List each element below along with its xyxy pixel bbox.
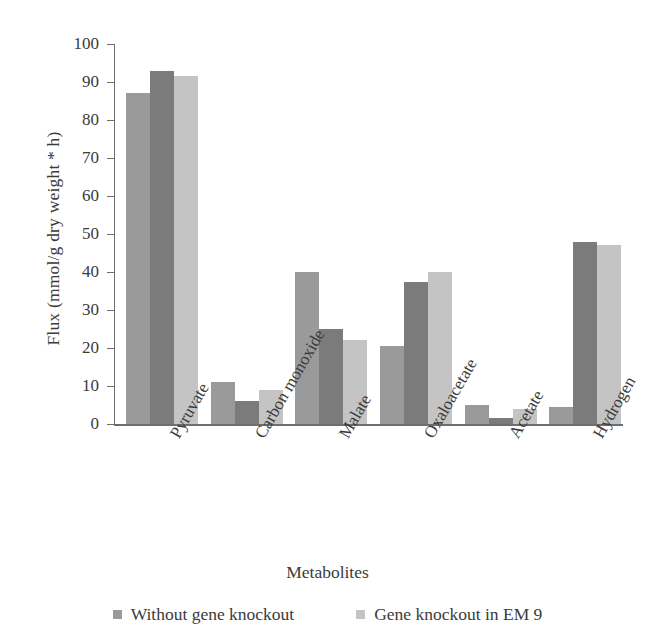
y-axis-tick-mark [107, 82, 114, 83]
bar [465, 405, 489, 424]
y-axis-tick-label: 70 [82, 149, 99, 166]
legend-label: Without gene knockout [131, 604, 295, 625]
y-axis-tick-mark [107, 386, 114, 387]
y-axis-tick-label: 50 [82, 225, 99, 242]
legend-swatch-icon [356, 610, 365, 619]
legend-label: Gene knockout in EM 9 [374, 604, 542, 625]
y-axis-tick-mark [107, 272, 114, 273]
bar [211, 382, 235, 424]
bar [573, 242, 597, 424]
legend-swatch-icon [113, 610, 122, 619]
y-axis-tick-label: 80 [82, 111, 99, 128]
bar [404, 282, 428, 425]
y-axis-tick-mark [107, 120, 114, 121]
bar-group [126, 44, 198, 424]
chart-legend: Without gene knockoutGene knockout in EM… [0, 604, 655, 625]
y-axis-tick-label: 20 [82, 339, 99, 356]
bar-group [211, 44, 283, 424]
y-axis-title: Flux (mmol/g dry weight * h) [43, 74, 64, 404]
bar-chart-figure: Flux (mmol/g dry weight * h) 01020304050… [0, 0, 655, 638]
bar [235, 401, 259, 424]
y-axis-tick-mark [107, 424, 114, 425]
y-axis-tick-label: 0 [91, 415, 100, 432]
y-axis-tick-label: 60 [82, 187, 99, 204]
y-axis-tick-label: 10 [82, 377, 99, 394]
legend-entry: Gene knockout in EM 9 [356, 604, 542, 625]
bar [150, 71, 174, 424]
bar-group [549, 44, 621, 424]
y-axis-tick-label: 30 [82, 301, 99, 318]
y-axis-tick-label: 90 [82, 73, 99, 90]
y-axis-tick-mark [107, 234, 114, 235]
y-axis-tick-mark [107, 196, 114, 197]
y-axis-tick-label: 100 [74, 35, 100, 52]
bar-group [380, 44, 452, 424]
bar [380, 346, 404, 424]
y-axis-tick-mark [107, 44, 114, 45]
y-axis-tick-mark [107, 348, 114, 349]
bar [549, 407, 573, 424]
y-axis-tick-mark [107, 310, 114, 311]
legend-entry: Without gene knockout [113, 604, 295, 625]
y-axis-tick-label: 40 [82, 263, 99, 280]
x-axis-title: Metabolites [0, 562, 655, 583]
y-axis-tick-mark [107, 158, 114, 159]
plot-area [114, 44, 622, 424]
bar [126, 93, 150, 424]
bar [174, 76, 198, 424]
